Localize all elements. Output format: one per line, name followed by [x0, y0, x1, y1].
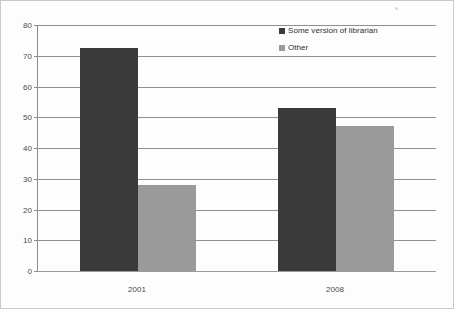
bar-2001-other [138, 185, 196, 271]
y-tick-mark-70 [34, 56, 38, 57]
y-tick-mark-80 [34, 25, 38, 26]
y-tick-mark-30 [34, 179, 38, 180]
y-tick-mark-40 [34, 148, 38, 149]
legend-item-other: Other [279, 40, 429, 55]
x-axis-labels: 20012008 [37, 271, 435, 301]
bar-chart-figure: 01020304050607080 20012008 Some version … [0, 0, 454, 309]
y-tick-mark-50 [34, 117, 38, 118]
legend-item-librarian: Some version of librarian [279, 23, 429, 38]
scan-artifact-speck [395, 7, 398, 10]
legend-swatch-icon [279, 45, 285, 51]
y-tick-label-20: 20 [23, 205, 32, 214]
y-tick-label-0: 0 [27, 267, 32, 276]
y-tick-label-60: 60 [23, 82, 32, 91]
y-tick-mark-20 [34, 210, 38, 211]
y-tick-label-50: 50 [23, 113, 32, 122]
legend-swatch-icon [279, 28, 285, 34]
y-tick-label-80: 80 [23, 21, 32, 30]
y-axis-labels: 01020304050607080 [1, 25, 32, 271]
y-tick-mark-60 [34, 87, 38, 88]
bar-2008-other [336, 126, 394, 271]
plot-area [37, 25, 436, 272]
x-tick-label-2001: 2001 [128, 285, 146, 294]
y-tick-label-70: 70 [23, 51, 32, 60]
legend-label: Some version of librarian [288, 26, 378, 35]
y-tick-label-30: 30 [23, 174, 32, 183]
y-tick-label-40: 40 [23, 144, 32, 153]
y-tick-mark-10 [34, 240, 38, 241]
x-tick-label-2008: 2008 [326, 285, 344, 294]
legend-label: Other [288, 43, 308, 52]
bar-2008-librarian [278, 108, 336, 271]
chart-legend: Some version of librarianOther [279, 23, 429, 57]
y-tick-label-10: 10 [23, 236, 32, 245]
bar-2001-librarian [80, 48, 138, 271]
